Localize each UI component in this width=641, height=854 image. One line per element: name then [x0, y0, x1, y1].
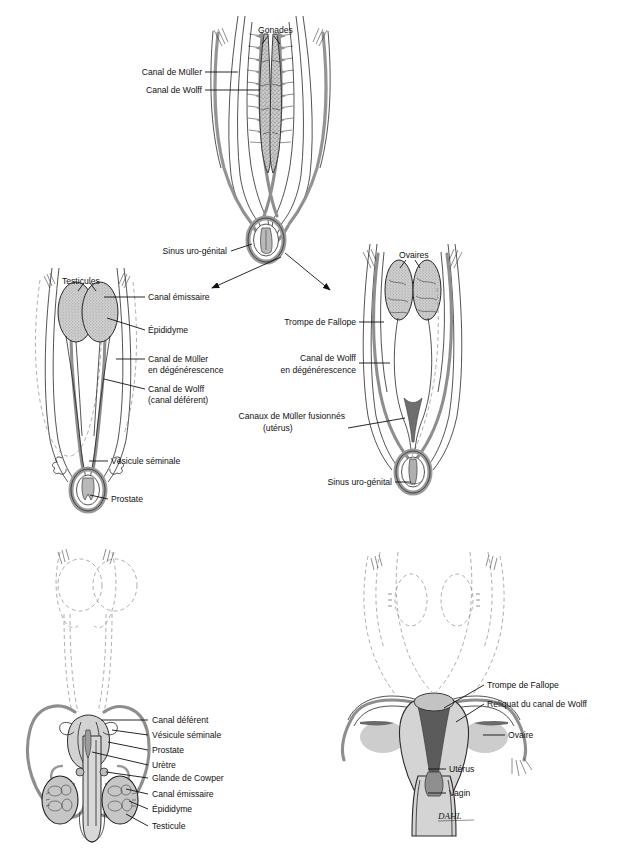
label-uretre: Urètre	[152, 760, 176, 770]
artist-signature: DAHL	[437, 811, 462, 821]
label-trompe-de-fallope: Trompe de Fallope	[284, 317, 356, 327]
label-wolff-degenerescence-1: Canal de Wolff	[300, 353, 357, 363]
label-vagin-adulte: Vagin	[449, 788, 471, 798]
anatomical-figure: DAHL Gonades Canal de Müller Canal de Wo…	[0, 0, 641, 854]
label-testicules: Testicules	[62, 276, 100, 286]
testis-right	[82, 282, 118, 342]
label-uterus-paren: (utérus)	[263, 423, 293, 433]
label-prostate: Prostate	[111, 494, 143, 504]
label-canal-emissaire: Canal émissaire	[148, 292, 210, 302]
label-canal-de-muller: Canal de Müller	[142, 67, 202, 77]
label-vesicule-seminale-adulte: Vésicule séminale	[152, 730, 221, 740]
label-wolff-degenerescence-2: en dégénérescence	[281, 365, 357, 375]
label-muller-degenerescence-1: Canal de Müller	[148, 354, 208, 364]
label-testicule-adulte: Testicule	[152, 821, 186, 831]
ovary-left	[385, 260, 413, 320]
label-sinus-uro-genital-femelle: Sinus uro-génital	[328, 477, 393, 487]
label-vesicule-seminale: Vésicule séminale	[111, 456, 180, 466]
label-muller-degenerescence-2: en dégénérescence	[148, 365, 224, 375]
label-canal-deferent-2: (canal déférent)	[148, 395, 208, 405]
cervix	[425, 772, 443, 796]
label-prostate-adulte: Prostate	[152, 745, 184, 755]
label-trompe-de-fallope-adulte: Trompe de Fallope	[487, 680, 559, 690]
label-ovaires: Ovaires	[399, 250, 429, 260]
label-canaux-muller-fusionnes: Canaux de Müller fusionnés	[238, 411, 345, 421]
cowper-gland-left	[76, 768, 84, 776]
label-canal-deferent-1: Canal de Wolff	[148, 384, 205, 394]
label-reliquat-canal-de-wolff: Reliquat du canal de Wolff	[487, 699, 588, 709]
label-canal-deferent-adulte: Canal déférent	[152, 715, 209, 725]
label-epididyme-adulte: Épididyme	[152, 804, 192, 814]
testis-adult-left	[42, 776, 78, 824]
label-ovaire-adulte: Ovaire	[508, 730, 534, 740]
label-sinus-uro-genital: Sinus uro-génital	[163, 246, 228, 256]
label-canal-emissaire-adulte: Canal émissaire	[152, 789, 214, 799]
label-canal-de-wolff: Canal de Wolff	[146, 85, 203, 95]
label-glande-de-cowper: Glande de Cowper	[152, 773, 224, 783]
label-epididyme: Épididyme	[148, 325, 188, 335]
label-gonades: Gonades	[258, 25, 293, 35]
label-uterus-adulte: Utérus	[449, 764, 474, 774]
